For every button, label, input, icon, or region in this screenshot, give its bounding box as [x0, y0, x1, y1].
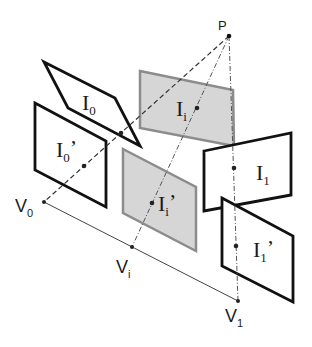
label-P: P [218, 18, 227, 33]
label-V0: V0 [15, 196, 33, 219]
label-V1: V1 [225, 306, 243, 329]
point-I0-prime [82, 164, 87, 169]
point-Ii-prime [150, 201, 155, 206]
label-Vi: Vi [116, 257, 130, 280]
point-P [227, 34, 232, 39]
point-V0 [42, 200, 46, 204]
point-Ii [195, 106, 200, 111]
view-morphing-diagram: P I0 I0’ Ii Ii’ I1 I1’ V0 Vi V1 [0, 0, 312, 347]
point-I1-prime [234, 244, 239, 249]
point-V1 [236, 299, 240, 303]
point-I1 [232, 166, 237, 171]
plane-Ii [140, 71, 234, 146]
point-Vi [130, 245, 134, 249]
plane-I1 [204, 133, 291, 211]
point-I0 [119, 131, 124, 136]
